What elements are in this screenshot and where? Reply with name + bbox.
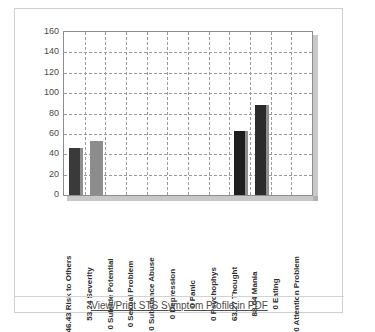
y-tick-label: 20 [33, 170, 59, 179]
category-label-text: 0 Substance Abuse [148, 257, 156, 331]
plot-shadow-right [313, 35, 318, 201]
bar [255, 105, 266, 195]
gridline-vertical [147, 32, 148, 195]
category-label-text: 0 Suicide Potential [107, 258, 115, 329]
bar-fill [234, 131, 245, 195]
category-label: 0 Eating [270, 201, 291, 294]
category-axis-labels: 46.43 Risk to Others53.24 Severity0 Suic… [63, 201, 313, 294]
bar-shadow [245, 131, 248, 195]
category-label: 0 Depression [166, 201, 187, 294]
gridline-vertical [229, 32, 230, 195]
y-tick-label: 60 [33, 129, 59, 138]
bar-shadow [80, 148, 83, 195]
bar-fill [255, 105, 266, 195]
category-label: 46.43 Risk to Others [63, 201, 84, 294]
category-label-text: 0 Attention Problem [293, 256, 301, 332]
bar-fill [90, 141, 101, 195]
gridline-vertical [105, 32, 106, 195]
gridline-vertical [85, 32, 86, 195]
view-print-pdf-link[interactable]: View/Print STS Symptom Profile in PDF [91, 300, 268, 311]
y-axis: 020406080100120140160 [29, 31, 59, 196]
bar [90, 141, 101, 195]
bar [69, 148, 80, 195]
category-label-text: 46.43 Risk to Others [65, 256, 73, 332]
y-tick-label: 140 [33, 47, 59, 56]
y-tick-label: 120 [33, 68, 59, 77]
gridline-vertical [167, 32, 168, 195]
category-label: 0 Attention Problem [290, 201, 311, 294]
y-tick-label: 80 [33, 109, 59, 118]
gridline-vertical [126, 32, 127, 195]
bar-shadow [100, 141, 103, 195]
y-tick-label: 160 [33, 27, 59, 36]
gridline-vertical [209, 32, 210, 195]
y-tick-label: 0 [33, 190, 59, 199]
category-label: 0 Panic [187, 201, 208, 294]
plot-area [63, 31, 313, 196]
category-label: 0 Psychophys [208, 201, 229, 294]
chart-panel: 020406080100120140160 46.43 Risk to Othe… [14, 8, 343, 313]
bar [234, 131, 245, 195]
gridline-vertical [271, 32, 272, 195]
category-label: 63.27 Thought [228, 201, 249, 294]
category-label: 53.24 Severity [84, 201, 105, 294]
gridline-vertical [250, 32, 251, 195]
symptom-profile-chart: 020406080100120140160 46.43 Risk to Othe… [15, 9, 344, 296]
category-label: 88.04 Mania [249, 201, 270, 294]
gridline-vertical [188, 32, 189, 195]
category-label: 0 Sexual Problem [125, 201, 146, 294]
bar-fill [69, 148, 80, 195]
category-label: 0 Substance Abuse [146, 201, 167, 294]
y-tick-label: 100 [33, 88, 59, 97]
gridline-vertical [291, 32, 292, 195]
footer: View/Print STS Symptom Profile in PDF [15, 297, 344, 313]
bar-shadow [266, 105, 269, 195]
y-tick-label: 40 [33, 149, 59, 158]
category-label-text: 0 Sexual Problem [127, 261, 135, 328]
category-label: 0 Suicide Potential [104, 201, 125, 294]
